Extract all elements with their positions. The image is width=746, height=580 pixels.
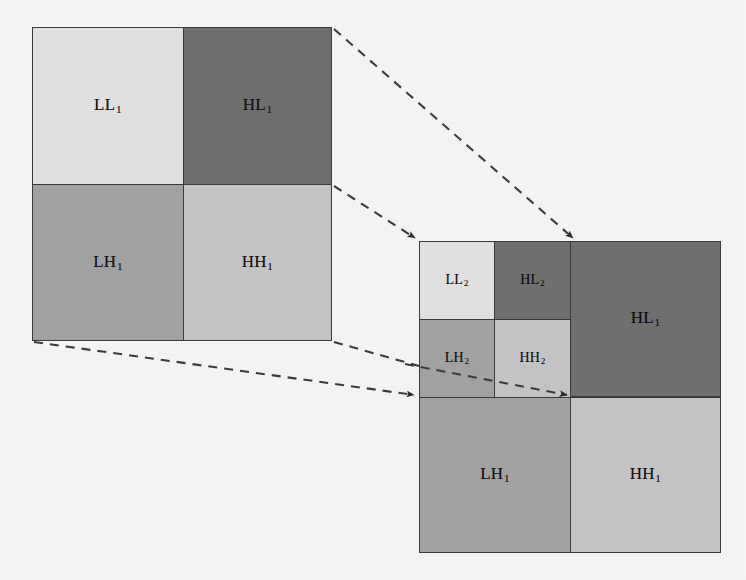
subband-HH1-label: HH1: [242, 253, 274, 272]
connector-lh1-to-level2-leftmid: [34, 342, 414, 395]
subband-LL2: LL2: [419, 241, 495, 320]
subband-HH1: HH1: [183, 184, 332, 341]
subband-LH1-right: LH1: [419, 397, 571, 553]
subband-HH2: HH2: [494, 319, 571, 398]
figure-canvas: LL1 HL1 LH1 HH1 HL1 LH1 HH1 LL2 HL2: [0, 0, 746, 580]
connector-hl1-to-level2-topleft: [334, 186, 415, 238]
subband-LH2-label: LH2: [445, 351, 470, 367]
subband-LH1-right-label: LH1: [480, 465, 510, 484]
subband-HL1-right-label: HL1: [631, 309, 661, 328]
subband-LH1-label: LH1: [93, 253, 123, 272]
connector-hh1-to-level2-leftupper: [334, 342, 419, 366]
subband-LH1: LH1: [32, 184, 184, 341]
subband-LL1-label: LL1: [94, 96, 122, 115]
subband-LH2: LH2: [419, 319, 495, 398]
subband-HL1: HL1: [183, 27, 332, 185]
subband-HL1-right: HL1: [570, 241, 721, 397]
subband-HL1-label: HL1: [243, 96, 273, 115]
subband-HH1-right: HH1: [570, 397, 721, 553]
subband-LL1: LL1: [32, 27, 184, 185]
subband-HH2-label: HH2: [519, 351, 545, 367]
connector-hl1-to-level2-topright: [334, 29, 573, 238]
subband-HL2: HL2: [494, 241, 571, 320]
subband-HH1-right-label: HH1: [630, 465, 662, 484]
subband-HL2-label: HL2: [520, 273, 545, 289]
subband-LL2-label: LL2: [445, 273, 468, 289]
